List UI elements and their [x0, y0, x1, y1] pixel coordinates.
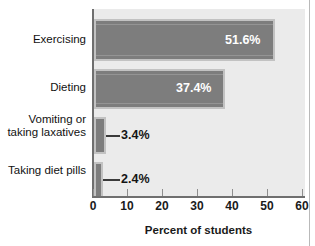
x-axis-line	[92, 196, 305, 198]
leader-line-diet-pills	[103, 179, 120, 181]
x-tick-label-50: 50	[247, 199, 287, 213]
category-label-exercising: Exercising	[0, 33, 86, 46]
x-tick-40	[232, 189, 233, 196]
page-edge-rule	[309, 0, 310, 246]
bar-chart-figure: 51.6% 37.4% 3.4% 2.4% 0 10 20 30 40 50 6…	[0, 0, 315, 246]
bar-highlight-rule	[96, 74, 223, 75]
leader-line-vomiting	[106, 135, 120, 137]
x-tick-0	[93, 189, 94, 196]
category-label-dieting: Dieting	[0, 81, 86, 94]
x-tick-20	[162, 189, 163, 196]
bar-shadow-rule	[96, 55, 273, 56]
x-axis-title: Percent of students	[92, 224, 305, 236]
x-tick-10	[127, 189, 128, 196]
category-label-taking-diet-pills: Taking diet pills	[0, 164, 86, 177]
bar-highlight-rule	[96, 24, 273, 25]
bar-value-dieting: 37.4%	[176, 81, 211, 95]
plot-area: 51.6% 37.4% 3.4% 2.4%	[92, 9, 305, 197]
category-label-vomiting-or-taking-laxatives: Vomiting or taking laxatives	[0, 113, 86, 139]
chart-title	[92, 0, 303, 2]
x-tick-30	[197, 189, 198, 196]
x-tick-label-10: 10	[107, 199, 147, 213]
x-tick-label-60: 60	[282, 199, 315, 213]
bar-vomiting-or-taking-laxatives	[94, 117, 106, 154]
bar-value-vomiting-or-taking-laxatives: 3.4%	[121, 128, 150, 142]
bar-taking-diet-pills	[94, 162, 103, 198]
bar-value-taking-diet-pills: 2.4%	[121, 172, 150, 186]
x-tick-label-20: 20	[142, 199, 182, 213]
x-tick-label-40: 40	[212, 199, 252, 213]
bar-value-exercising: 51.6%	[225, 33, 260, 47]
bar-shadow-rule	[96, 103, 223, 104]
x-tick-label-30: 30	[177, 199, 217, 213]
x-tick-50	[267, 189, 268, 196]
x-tick-60	[302, 189, 303, 196]
